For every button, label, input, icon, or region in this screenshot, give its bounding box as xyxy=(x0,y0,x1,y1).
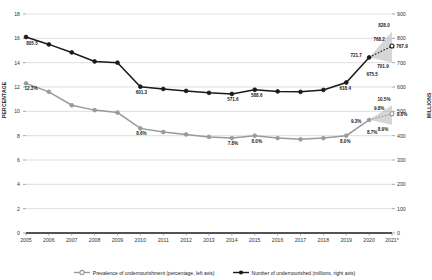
data-label-percent-2019: 8.0% xyxy=(333,139,357,144)
data-label-percent-mid: 9.8% xyxy=(367,106,391,111)
data-label-millions-2020: 721.7 xyxy=(344,53,368,58)
legend-label-prevalence: Prevalence of undernourishment (percenta… xyxy=(93,270,215,276)
chart-legend: Prevalence of undernourishment (percenta… xyxy=(0,269,429,276)
data-label-percent-lower: 8.9% xyxy=(371,127,395,132)
data-label-millions-2005: 805.5 xyxy=(20,41,44,46)
data-label-millions-2010: 601.3 xyxy=(129,90,153,95)
data-label-percent-upper: 10.5% xyxy=(372,97,396,102)
data-label-percent-2015: 8.0% xyxy=(245,139,269,144)
data-label-percent-2005: 12.3% xyxy=(19,86,43,91)
gridlines xyxy=(23,14,395,236)
legend-item-number[interactable]: Number of undernourished (millions, righ… xyxy=(233,269,356,276)
data-label-millions-mid: 768.2 xyxy=(367,37,391,42)
open-circle-marker-icon xyxy=(74,269,90,276)
data-label-millions-2014: 571.6 xyxy=(221,97,245,102)
data-label-millions-2019: 618.4 xyxy=(333,86,357,91)
filled-circle-marker-icon xyxy=(233,269,249,276)
data-label-percent-marker: 9.8% xyxy=(390,112,414,117)
data-label-millions-upper: 828.0 xyxy=(372,23,396,28)
data-label-millions-2015: 588.6 xyxy=(245,93,269,98)
data-label-millions-lower-anchor: 675.5 xyxy=(360,72,384,77)
data-label-percent-2010: 8.6% xyxy=(129,131,153,136)
data-label-percent-2020: 9.3% xyxy=(344,119,368,124)
data-label-millions-marker: 767.9 xyxy=(390,44,414,49)
data-label-percent-2014: 7.8% xyxy=(221,141,245,146)
legend-item-prevalence[interactable]: Prevalence of undernourishment (percenta… xyxy=(74,269,215,276)
data-label-millions-lower: 701.9 xyxy=(371,64,395,69)
legend-label-number: Number of undernourished (millions, righ… xyxy=(252,270,356,276)
